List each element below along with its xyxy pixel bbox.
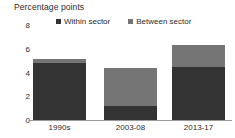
bar-segment-within-sector <box>172 67 225 120</box>
x-axis-label-1990s: 1990s <box>33 123 86 132</box>
bar-2013-17 <box>172 45 225 120</box>
bar-2003-08 <box>104 68 157 120</box>
bar-segment-within-sector <box>33 63 86 120</box>
bar-segment-within-sector <box>104 106 157 120</box>
bar-series-area: 1990s2003-082013-17 <box>0 0 235 138</box>
x-axis-label-2003-08: 2003-08 <box>104 123 157 132</box>
bar-segment-between-sector <box>172 45 225 66</box>
chart-container: Percentage points Within sector Between … <box>0 0 235 138</box>
x-axis-label-2013-17: 2013-17 <box>172 123 225 132</box>
bar-segment-between-sector <box>104 68 157 106</box>
bar-1990s <box>33 59 86 120</box>
